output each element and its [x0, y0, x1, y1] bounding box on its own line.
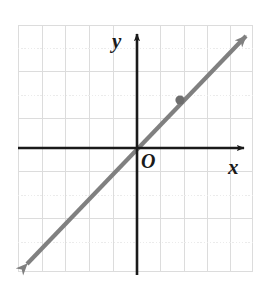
point-marker [175, 95, 184, 104]
coordinate-plane-figure: y x O [0, 0, 264, 282]
origin-label: O [141, 150, 155, 172]
graph-canvas: y x O [0, 0, 264, 282]
x-axis-label: x [227, 155, 239, 179]
